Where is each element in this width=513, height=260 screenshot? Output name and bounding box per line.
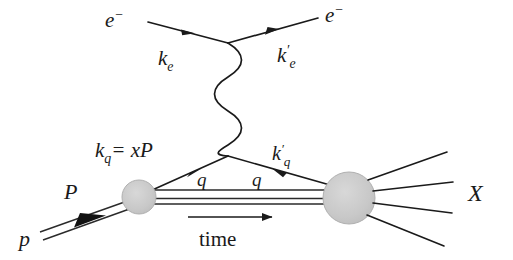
hadron-fan-line-3: [373, 203, 452, 213]
label-incoming-electron-symbol: e: [105, 8, 114, 32]
hadron-blob: [323, 172, 375, 224]
hadron-fan-lines: [367, 152, 453, 246]
label-time: time: [199, 227, 236, 251]
label-photon-q-left: q: [197, 169, 207, 190]
feynman-diagram-canvas: e− e− ke k′e kq= xP k′q q q P p X: [0, 0, 513, 260]
label-quark-in-momentum: kq= xP: [95, 138, 153, 166]
label-incoming-electron-charge: −: [114, 7, 123, 22]
label-outgoing-electron: e−: [325, 2, 344, 27]
proton-blob: [122, 180, 156, 214]
label-kqp-sub: q: [284, 154, 291, 169]
label-outgoing-electron-charge: −: [334, 2, 343, 17]
outgoing-electron-line: [228, 18, 318, 43]
outgoing-electron-arrowhead: [265, 27, 279, 35]
incoming-electron-line: [148, 22, 228, 43]
label-outgoing-electron-symbol: e: [325, 3, 334, 27]
label-electron-out-momentum: k′e: [277, 43, 296, 71]
incoming-proton-line: [40, 199, 135, 240]
label-kq-sub: q: [104, 151, 111, 166]
photon-propagator-path: [215, 43, 242, 156]
label-photon-q-right: q: [252, 169, 262, 190]
label-quark-out-momentum: k′q: [272, 141, 291, 169]
label-incoming-electron: e−: [105, 7, 124, 32]
virtual-photon-wavy-line: [215, 43, 242, 156]
hadron-fan-line-4: [367, 215, 444, 246]
label-proton-momentum: P: [63, 179, 77, 204]
spectator-quark-lines: [152, 190, 330, 204]
label-electron-in-momentum: ke: [158, 46, 173, 74]
label-ke-sub: e: [167, 59, 173, 74]
label-hadrons-X: X: [467, 180, 484, 206]
feynman-diagram-svg: e− e− ke k′e kq= xP k′q q q P p X: [0, 0, 513, 260]
incoming-quark-propagator: [150, 156, 228, 191]
label-kep-sub: e: [289, 56, 295, 71]
hadron-fan-line-2: [373, 182, 453, 191]
incoming-quark-line: [150, 156, 228, 191]
label-proton: p: [17, 226, 30, 251]
proton-arrowhead: [74, 213, 106, 228]
label-kq-equals: = xP: [111, 138, 153, 162]
hadron-fan-line-1: [368, 152, 447, 180]
proton-line-lower: [43, 207, 135, 240]
